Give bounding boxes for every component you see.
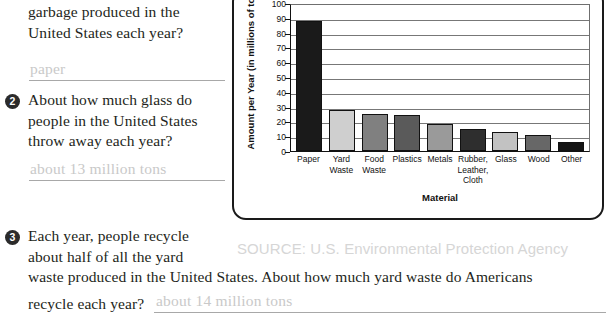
y-axis-title: Amount per Year (in millions of tons): [245, 0, 256, 150]
answer-2-text: about 13 million tons: [30, 160, 166, 178]
question-3-tail: recycle each year?: [28, 294, 144, 315]
bars-group: [291, 5, 589, 151]
bar: [329, 110, 355, 151]
x-tick-label: Glass: [489, 154, 522, 186]
answer-1-line[interactable]: [29, 80, 225, 81]
plot-area: [290, 4, 590, 152]
bar-chart: Amount per Year (in millions of tons) 10…: [234, 0, 606, 222]
x-axis-title: Material: [290, 192, 590, 203]
y-tick-label: 80: [266, 29, 286, 39]
bar: [525, 135, 551, 151]
y-tick-label: 40: [266, 88, 286, 98]
question-2-line-3: throw away each year?: [28, 132, 173, 149]
bar: [427, 124, 453, 151]
question-3-line-2: about half of all the yard: [28, 248, 183, 265]
y-tick-label: 50: [266, 73, 286, 83]
question-1-line-1: garbage produced in the: [28, 3, 180, 20]
x-axis-category-labels: PaperYardWasteFoodWastePlasticsMetalsRub…: [290, 154, 590, 186]
x-tick-label: Rubber,Leather,Cloth: [456, 154, 489, 186]
worksheet-page: garbage produced in the United States ea…: [0, 0, 614, 316]
question-1-line-2: United States each year?: [28, 24, 183, 41]
question-2-line-2: people in the United States: [28, 112, 198, 129]
bar: [296, 21, 322, 151]
answer-3-line[interactable]: [154, 312, 606, 313]
answer-1-text: paper: [30, 60, 65, 78]
question-3-line-1: Each year, people recycle: [28, 227, 189, 244]
bar: [394, 115, 420, 151]
y-tick-label: 90: [266, 14, 286, 24]
question-3-text: Each year, people recycle about half of …: [28, 226, 233, 267]
question-3-continuation: waste produced in the United States. Abo…: [28, 267, 608, 288]
x-tick-label: FoodWaste: [358, 154, 391, 186]
question-1-text: garbage produced in the United States ea…: [28, 2, 228, 43]
answer-2-line[interactable]: [29, 180, 225, 181]
x-tick-label: Paper: [292, 154, 325, 186]
y-tick-label: 70: [266, 43, 286, 53]
answer-3-text: about 14 million tons: [156, 292, 292, 310]
source-note: SOURCE: U.S. Environmental Protection Ag…: [237, 240, 568, 257]
x-tick-label: Plastics: [391, 154, 424, 186]
x-tick-label: Wood: [522, 154, 555, 186]
y-tick-label: 20: [266, 117, 286, 127]
bar: [460, 129, 486, 151]
y-tick-label: 100: [266, 0, 286, 9]
question-2-number: 2: [5, 94, 20, 109]
question-2-line-1: About how much glass do: [28, 91, 192, 108]
question-3-number: 3: [5, 230, 20, 245]
y-tick-label: 30: [266, 103, 286, 113]
bar-chart-panel: Amount per Year (in millions of tons) 10…: [232, 0, 604, 220]
y-tick-label: 10: [266, 132, 286, 142]
bar: [362, 114, 388, 151]
x-tick-label: YardWaste: [325, 154, 358, 186]
x-tick-label: Other: [555, 154, 588, 186]
y-tick-label: 60: [266, 58, 286, 68]
question-2-text: About how much glass do people in the Un…: [28, 90, 233, 152]
y-tickmark: [285, 152, 290, 153]
bar: [558, 142, 584, 151]
x-tick-label: Metals: [424, 154, 457, 186]
y-tick-label: 0: [266, 147, 286, 157]
bar: [492, 132, 518, 151]
